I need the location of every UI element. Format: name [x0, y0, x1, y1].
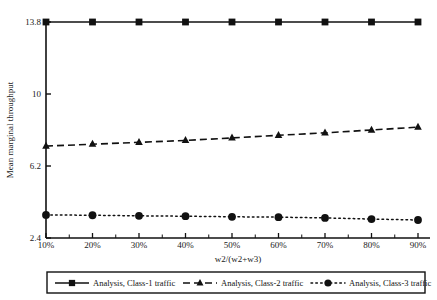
marker-circle: [414, 216, 422, 224]
x-tick-label: 70%: [317, 240, 334, 250]
series-1: [43, 19, 422, 26]
marker-circle: [135, 212, 143, 220]
y-axis-title: Mean marginal throughput: [5, 81, 15, 178]
y-tick-label: 6.2: [30, 161, 41, 171]
x-tick-label: 20%: [84, 240, 101, 250]
marker-triangle: [368, 126, 376, 133]
marker-square: [368, 19, 375, 26]
marker-square: [69, 280, 75, 286]
marker-circle: [42, 211, 50, 219]
marker-circle: [182, 212, 190, 220]
marker-triangle: [135, 138, 143, 145]
x-axis-tick-labels: 10%20%30%40%50%60%70%80%90%: [38, 240, 427, 250]
x-tick-label: 90%: [410, 240, 427, 250]
y-tick-label: 10: [32, 89, 42, 99]
x-axis-title: w2/(w2+w3): [215, 254, 262, 264]
x-tick-label: 80%: [363, 240, 380, 250]
chart-svg: 2.46.21013.8 10%20%30%40%50%60%70%80%90%…: [0, 0, 437, 300]
marker-square: [275, 19, 282, 26]
marker-circle: [324, 279, 331, 286]
chart-figure: 2.46.21013.8 10%20%30%40%50%60%70%80%90%…: [0, 0, 437, 300]
marker-circle: [368, 215, 376, 223]
x-tick-label: 60%: [270, 240, 287, 250]
legend-entries: Analysis, Class-1 trafficAnalysis, Class…: [55, 278, 431, 288]
marker-square: [229, 19, 236, 26]
x-tick-label: 10%: [38, 240, 55, 250]
legend-label: Analysis, Class-3 traffic: [349, 278, 431, 288]
marker-triangle: [321, 129, 329, 136]
marker-square: [89, 19, 96, 26]
marker-circle: [275, 213, 283, 221]
marker-square: [43, 19, 50, 26]
series-3: [42, 211, 422, 224]
y-tick-label: 13.8: [25, 17, 41, 27]
marker-circle: [321, 214, 329, 222]
marker-circle: [89, 211, 97, 219]
marker-square: [136, 19, 143, 26]
x-tick-label: 40%: [177, 240, 194, 250]
marker-triangle: [182, 136, 190, 143]
marker-square: [322, 19, 329, 26]
marker-square: [415, 19, 422, 26]
series-2: [42, 123, 422, 149]
data-series-layer: [42, 19, 422, 224]
legend-label: Analysis, Class-2 traffic: [221, 278, 303, 288]
y-axis-tick-labels: 2.46.21013.8: [25, 17, 41, 243]
x-tick-label: 50%: [224, 240, 241, 250]
marker-triangle: [414, 123, 422, 130]
marker-square: [182, 19, 189, 26]
legend-label: Analysis, Class-1 traffic: [93, 278, 175, 288]
marker-circle: [228, 213, 236, 221]
x-tick-label: 30%: [131, 240, 148, 250]
